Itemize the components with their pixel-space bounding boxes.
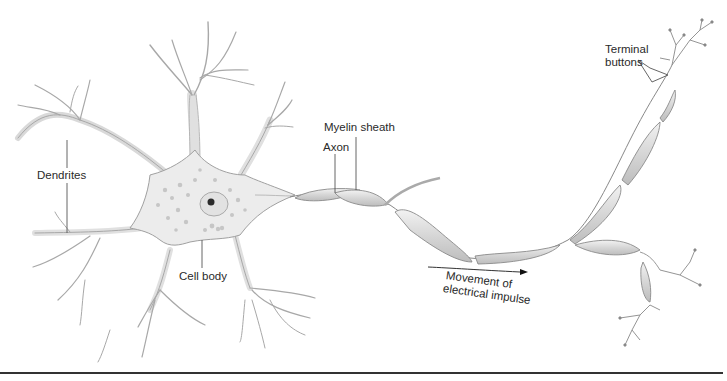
nucleolus (208, 199, 215, 206)
label-myelin-sheath: Myelin sheath (324, 121, 395, 134)
label-terminal-buttons-2: buttons (605, 56, 643, 69)
nucleus (200, 192, 228, 216)
label-dendrites: Dendrites (37, 169, 86, 182)
label-axon: Axon (323, 141, 349, 154)
label-cell-body: Cell body (179, 270, 227, 283)
bottom-rule (0, 372, 723, 374)
label-terminal-buttons-1: Terminal (605, 43, 648, 56)
impulse-arrow (428, 267, 520, 272)
